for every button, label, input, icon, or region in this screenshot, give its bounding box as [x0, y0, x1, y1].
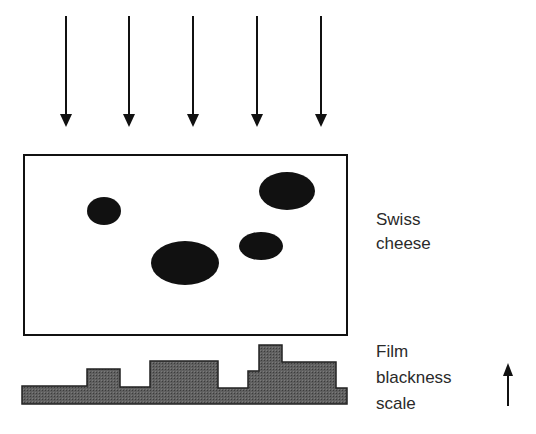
label-line: Film [376, 339, 452, 365]
label-line: scale [376, 391, 452, 417]
label-line: Swiss [376, 208, 431, 232]
down-arrow-icon [60, 16, 72, 127]
incident-ray-arrows [60, 16, 327, 127]
film-blackness-histogram [22, 345, 347, 404]
down-arrow-icon [251, 16, 263, 127]
cheese-hole [151, 241, 219, 285]
down-arrow-icon [123, 16, 135, 127]
cheese-hole [239, 232, 283, 260]
down-arrow-icon [187, 16, 199, 127]
swiss-cheese-label: Swiss cheese [376, 208, 431, 256]
diagram-canvas [0, 0, 536, 434]
up-arrow-icon [503, 363, 513, 406]
cheese-hole [87, 197, 121, 225]
down-arrow-icon [315, 16, 327, 127]
film-blackness-scale-label: Film blackness scale [376, 339, 452, 417]
cheese-hole [259, 172, 315, 210]
label-line: cheese [376, 232, 431, 256]
label-line: blackness [376, 365, 452, 391]
